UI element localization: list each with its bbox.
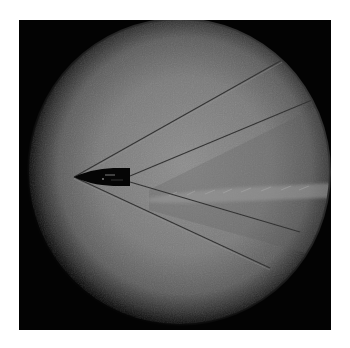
shadowgraph-photo: Dark bullet pointing left, with a bow sh…	[19, 20, 331, 330]
shadowgraph-svg	[19, 20, 331, 330]
bullet-glint	[102, 178, 104, 180]
image-canvas: Dark bullet pointing left, with a bow sh…	[0, 0, 350, 348]
